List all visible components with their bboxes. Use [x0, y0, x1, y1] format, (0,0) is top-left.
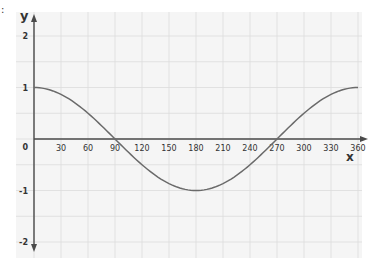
y-axis-label: y	[20, 8, 29, 23]
origin-label: 0	[22, 143, 28, 152]
x-tick-label: 240	[242, 144, 257, 153]
x-tick-label: 90	[110, 144, 120, 153]
x-tick-label: 60	[83, 144, 93, 153]
y-tick-label: -2	[19, 238, 28, 247]
x-tick-label: 30	[56, 144, 66, 153]
y-tick-label: -1	[19, 187, 28, 196]
y-tick-label: 1	[22, 84, 28, 93]
x-axis-arrow-icon	[360, 136, 368, 142]
x-tick-label: 210	[215, 144, 230, 153]
cosine-chart: yx21-1-203060901201501802102402703003303…	[0, 0, 377, 266]
x-tick-label: 300	[296, 144, 311, 153]
y-tick-label: 2	[22, 32, 28, 41]
x-tick-label: 180	[188, 144, 203, 153]
plot-background	[16, 12, 362, 258]
x-tick-label: 120	[134, 144, 149, 153]
x-tick-label: 330	[323, 144, 338, 153]
x-tick-label: 360	[350, 144, 365, 153]
x-tick-label: 150	[161, 144, 176, 153]
